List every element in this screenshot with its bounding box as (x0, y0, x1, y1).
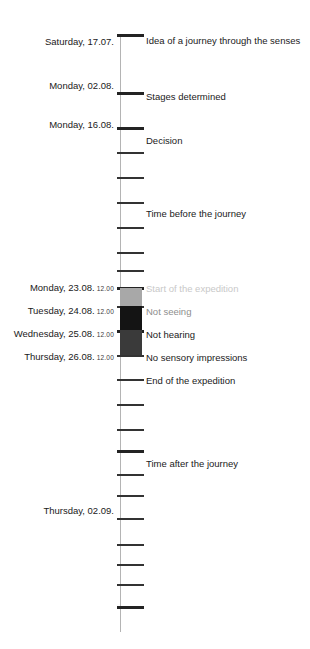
timeline-tick (117, 34, 144, 37)
timeline-tick (117, 92, 144, 95)
date-label: Tuesday, 24.08.12.00 (28, 305, 114, 317)
date-label-text: Saturday, 17.07. (45, 36, 114, 47)
timeline-tick (117, 127, 144, 130)
date-label: Monday, 16.08. (49, 119, 114, 130)
event-label: End of the expedition (146, 375, 235, 386)
timeline-tick (117, 404, 144, 406)
date-label-text: Monday, 02.08. (49, 80, 114, 91)
event-label: No sensory impressions (146, 352, 247, 363)
date-label-text: Tuesday, 24.08. (28, 305, 95, 316)
timeline-tick (117, 429, 144, 431)
date-label-time: 12.00 (97, 308, 114, 315)
event-label: Idea of a journey through the senses (146, 35, 300, 46)
phase-block-not-seeing (120, 288, 142, 306)
date-label: Wednesday, 25.08.12.00 (14, 328, 114, 340)
timeline-tick (117, 544, 144, 546)
phase-block-no-sensory-impressions (120, 330, 142, 355)
timeline-diagram: Saturday, 17.07.Monday, 02.08.Monday, 16… (0, 0, 310, 649)
date-label: Monday, 23.08.12.00 (30, 282, 114, 294)
timeline-tick (117, 152, 144, 154)
date-label-text: Monday, 23.08. (30, 282, 95, 293)
timeline-tick (117, 518, 144, 520)
date-label-text: Thursday, 26.08. (24, 351, 95, 362)
date-label-time: 12.00 (97, 285, 114, 292)
event-label: Not seeing (146, 306, 191, 317)
event-label: Start of the expedition (146, 283, 238, 294)
timeline-tick (117, 474, 144, 476)
event-label: Decision (146, 135, 182, 146)
date-label: Thursday, 26.08.12.00 (24, 351, 114, 363)
timeline-tick (117, 252, 144, 254)
event-label: Not hearing (146, 329, 195, 340)
event-label: Stages determined (146, 91, 226, 102)
timeline-tick (117, 450, 144, 453)
timeline-tick (117, 379, 144, 381)
timeline-tick (117, 177, 144, 179)
date-label-time: 12.00 (97, 354, 114, 361)
date-label-text: Monday, 16.08. (49, 119, 114, 130)
timeline-tick (117, 606, 144, 609)
phase-block-not-hearing (120, 306, 142, 330)
date-label-text: Wednesday, 25.08. (14, 328, 95, 339)
date-label: Thursday, 02.09. (43, 505, 114, 516)
timeline-tick (117, 355, 144, 357)
date-label-text: Thursday, 02.09. (43, 505, 114, 516)
event-label: Time before the journey (146, 208, 246, 219)
timeline-tick (117, 584, 144, 586)
date-label: Saturday, 17.07. (45, 36, 114, 47)
date-label: Monday, 02.08. (49, 80, 114, 91)
timeline-tick (117, 202, 144, 204)
timeline-tick (117, 495, 144, 497)
timeline-tick (117, 227, 144, 229)
date-label-time: 12.00 (97, 331, 114, 338)
timeline-tick (117, 270, 144, 272)
event-label: Time after the journey (146, 458, 238, 469)
timeline-tick (117, 564, 144, 566)
